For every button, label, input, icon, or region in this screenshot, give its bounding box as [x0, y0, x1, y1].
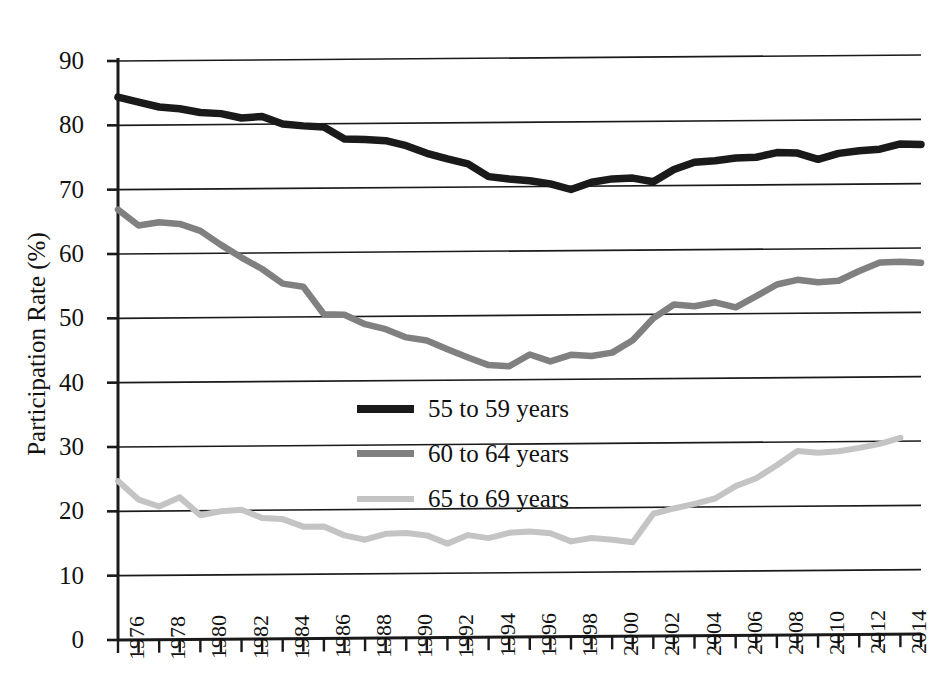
x-axis-tick-label: 1978: [167, 616, 189, 660]
legend-item[interactable]: 65 to 69 years: [357, 476, 657, 521]
y-axis-title: Participation Rate (%): [23, 64, 51, 624]
axis-lines: [118, 58, 921, 640]
legend-color-swatch: [357, 496, 414, 502]
y-axis-tick-label: 80: [22, 112, 84, 137]
x-axis-tick-label: 2012: [867, 610, 889, 654]
legend-item-label: 60 to 64 years: [428, 440, 569, 468]
legend-item[interactable]: 60 to 64 years: [357, 431, 657, 476]
x-axis-tick-label: 2004: [703, 612, 725, 656]
y-axis-tick-label: 10: [22, 563, 84, 588]
y-axis-tick-label: 0: [22, 627, 84, 652]
chart-container: Participation Rate (%) 01020304050607080…: [0, 0, 948, 696]
x-axis-tick-label: 1984: [291, 615, 313, 659]
x-axis-tick-label: 2006: [744, 611, 766, 655]
x-axis-tick-label: 1990: [414, 614, 436, 658]
x-axis-tick-label: 1986: [332, 614, 354, 658]
x-axis-tick-label: 2010: [826, 611, 848, 655]
x-axis-tick-label: 1998: [579, 613, 601, 657]
x-axis-tick-label: 1992: [455, 614, 477, 658]
chart-legend: 55 to 59 years60 to 64 years65 to 69 yea…: [357, 386, 657, 521]
chart-title-clipped: [0, 0, 948, 2]
legend-item[interactable]: 55 to 59 years: [357, 386, 657, 431]
legend-item-label: 65 to 69 years: [428, 485, 569, 513]
x-axis-tick-label: 1994: [497, 613, 519, 657]
x-axis-tick-label: 1988: [373, 614, 395, 658]
y-axis-tick-label: 40: [22, 370, 84, 395]
y-axis-tick-label: 50: [22, 305, 84, 330]
x-axis-tick-label: 1980: [208, 615, 230, 659]
x-axis-tick-label: 2008: [785, 611, 807, 655]
y-axis-tick-label: 90: [22, 48, 84, 73]
y-axis-tick-label: 20: [22, 498, 84, 523]
x-axis-tick-label: 2014: [908, 610, 930, 654]
x-axis-tick-label: 1996: [538, 613, 560, 657]
legend-item-label: 55 to 59 years: [428, 395, 569, 423]
legend-color-swatch: [357, 405, 414, 413]
legend-color-swatch: [357, 450, 414, 457]
x-axis-tick-label: 2000: [620, 612, 642, 656]
x-axis-tick-label: 1976: [126, 616, 148, 660]
y-axis-tick-label: 60: [22, 241, 84, 266]
y-axis-tick-label: 70: [22, 177, 84, 202]
y-axis-tick-label: 30: [22, 434, 84, 459]
y-axis-ticks: [107, 61, 118, 640]
x-axis-tick-label: 1982: [250, 615, 272, 659]
plot-area: [0, 0, 948, 696]
x-axis-tick-label: 2002: [661, 612, 683, 656]
